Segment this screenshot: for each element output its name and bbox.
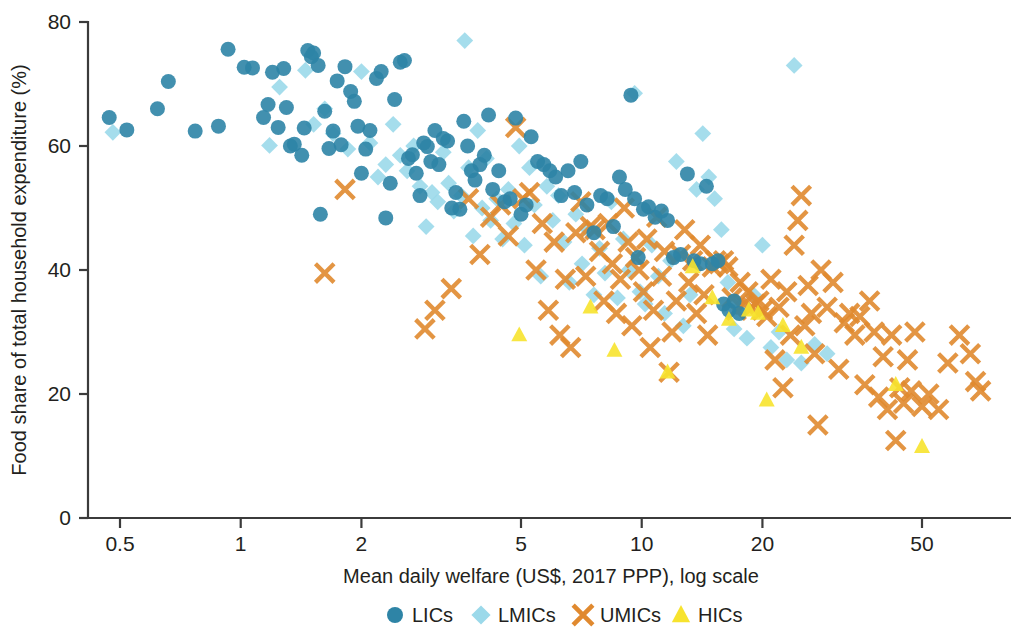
point-umics-19 [561,338,580,357]
x-tick-label-10: 10 [630,532,653,555]
point-umics-4 [442,279,461,298]
point-lics-42 [397,53,412,68]
point-hics-9 [759,392,775,407]
legend-label-umics: UMICs [600,604,661,626]
y-tick-label-0: 0 [59,506,71,529]
point-umics-82 [809,416,828,435]
legend-marker-hics [672,605,690,622]
point-lics-97 [680,166,695,181]
x-tick-label-50: 50 [910,532,933,555]
point-lics-87 [623,88,638,103]
legend-marker-lmics [471,605,490,624]
point-umics-45 [667,292,686,311]
legend-item-lmics[interactable]: LMICs [471,604,555,626]
point-umics-75 [785,236,804,255]
x-tick-label-2: 2 [356,532,368,555]
point-lmics-75 [754,237,771,254]
point-umics-108 [950,326,969,345]
point-lics-96 [673,247,688,262]
point-umics-76 [788,211,807,230]
point-lics-14 [279,100,294,115]
x-tick-label-5: 5 [515,532,527,555]
point-lics-13 [276,61,291,76]
point-umics-1 [336,180,355,199]
point-lmics-24 [456,32,473,49]
legend-label-lics: LICs [412,604,453,626]
point-lmics-79 [786,57,803,74]
point-lics-39 [383,176,398,191]
point-lics-1 [119,122,134,137]
point-lics-38 [378,210,393,225]
point-umics-106 [929,400,948,419]
point-lics-6 [221,42,236,57]
point-lics-45 [409,166,424,181]
point-lics-55 [448,185,463,200]
legend-item-hics[interactable]: HICs [672,604,743,626]
point-lmics-66 [694,125,711,142]
point-lics-67 [503,191,518,206]
legend-item-umics[interactable]: UMICs [573,604,661,626]
point-lics-37 [374,64,389,79]
point-umics-97 [882,326,901,345]
point-lics-83 [600,191,615,206]
point-lics-51 [431,157,446,172]
point-lics-58 [460,139,475,154]
x-axis-title: Mean daily welfare (US$, 2017 PPP), log … [343,565,759,587]
point-umics-77 [792,186,811,205]
x-tick-label-20: 20 [751,532,774,555]
scatter-plot-svg: 0204060800.5125102050Food share of total… [0,0,1011,635]
point-lics-62 [477,148,492,163]
point-lics-57 [456,114,471,129]
point-lics-102 [711,253,726,268]
point-lics-78 [567,185,582,200]
point-umics-33 [623,317,642,336]
chart-legend: LICsLMICsUMICsHICs [387,604,742,626]
point-umics-109 [961,344,980,363]
y-tick-label-20: 20 [48,382,71,405]
point-lmics-0 [104,124,121,141]
y-tick-label-40: 40 [48,258,71,281]
point-lics-5 [211,119,226,134]
point-lics-31 [347,94,362,109]
point-lmics-17 [418,218,435,235]
point-lics-71 [524,129,539,144]
point-lics-56 [452,202,467,217]
point-lics-26 [326,124,341,139]
x-tick-label-1: 1 [235,532,247,555]
point-lics-53 [440,134,455,149]
point-umics-89 [846,326,865,345]
point-lics-100 [699,179,714,194]
series-lics [102,42,747,321]
point-umics-3 [426,301,445,320]
point-lics-77 [561,163,576,178]
point-lics-4 [188,124,203,139]
point-umics-38 [641,338,660,357]
point-lmics-26 [465,228,482,245]
point-lics-22 [311,58,326,73]
point-hics-0 [511,326,527,341]
point-lmics-8 [353,63,370,80]
legend-item-lics[interactable]: LICs [387,604,453,626]
point-lmics-27 [469,122,486,139]
point-lics-18 [297,121,312,136]
point-lics-28 [334,137,349,152]
point-umics-72 [774,379,793,398]
x-tick-label-0.5: 0.5 [105,532,134,555]
y-tick-label-80: 80 [48,10,71,33]
point-lics-0 [102,110,117,125]
point-lics-89 [631,250,646,265]
point-umics-103 [906,323,925,342]
point-lics-23 [313,207,328,222]
point-lics-81 [586,225,601,240]
point-lics-9 [256,110,271,125]
point-umics-92 [860,292,879,311]
point-lmics-36 [516,237,533,254]
point-lics-3 [161,74,176,89]
point-lics-27 [330,73,345,88]
point-lmics-73 [739,330,756,347]
point-umics-6 [471,245,490,264]
point-umics-2 [416,320,435,339]
chart-figure: 0204060800.5125102050Food share of total… [0,0,1011,635]
point-umics-86 [829,360,848,379]
point-lics-64 [485,182,500,197]
